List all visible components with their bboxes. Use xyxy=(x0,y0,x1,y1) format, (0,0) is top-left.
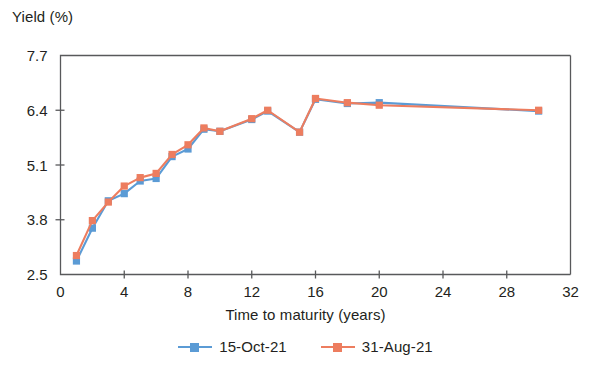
series-line xyxy=(76,99,538,261)
data-point-marker xyxy=(89,217,96,224)
legend-label: 31-Aug-21 xyxy=(362,338,433,355)
data-point-marker xyxy=(248,115,255,122)
data-point-marker xyxy=(121,182,128,189)
data-point-marker xyxy=(137,174,144,181)
data-point-marker xyxy=(153,170,160,177)
data-point-marker xyxy=(535,107,542,114)
data-point-marker xyxy=(216,128,223,135)
x-axis-title: Time to maturity (years) xyxy=(0,306,611,323)
data-point-marker xyxy=(312,95,319,102)
y-tick-label: 2.5 xyxy=(27,266,48,283)
data-point-marker xyxy=(296,129,303,136)
axes xyxy=(56,56,571,279)
legend-label: 15-Oct-21 xyxy=(219,338,287,355)
series-line xyxy=(76,98,538,255)
y-tick-label: 7.7 xyxy=(27,47,48,64)
series-2 xyxy=(73,95,542,259)
y-tick-label: 5.1 xyxy=(27,157,48,174)
x-tick-label: 20 xyxy=(371,283,388,300)
data-point-marker xyxy=(184,141,191,148)
x-tick-label: 4 xyxy=(120,283,128,300)
x-tick-label: 16 xyxy=(307,283,324,300)
legend-swatch-icon xyxy=(321,341,355,353)
legend-item-1[interactable]: 15-Oct-21 xyxy=(178,338,287,355)
chart-legend: 15-Oct-2131-Aug-21 xyxy=(0,338,611,355)
data-point-marker xyxy=(121,190,128,197)
data-point-marker xyxy=(264,107,271,114)
tick-labels: 2.53.85.16.47.7048121620242832 xyxy=(27,47,579,300)
data-point-marker xyxy=(168,151,175,158)
data-point-marker xyxy=(105,198,112,205)
x-tick-label: 28 xyxy=(498,283,515,300)
legend-item-2[interactable]: 31-Aug-21 xyxy=(321,338,433,355)
y-tick-label: 6.4 xyxy=(27,102,48,119)
y-tick-label: 3.8 xyxy=(27,211,48,228)
data-point-marker xyxy=(376,102,383,109)
data-series xyxy=(73,95,542,265)
yield-curve-chart: Yield (%) 2.53.85.16.47.7048121620242832… xyxy=(0,0,611,367)
legend-swatch-icon xyxy=(178,341,212,353)
x-tick-label: 32 xyxy=(562,283,579,300)
x-tick-label: 12 xyxy=(243,283,260,300)
data-point-marker xyxy=(344,99,351,106)
x-tick-label: 0 xyxy=(56,283,64,300)
x-tick-label: 8 xyxy=(184,283,192,300)
data-point-marker xyxy=(73,252,80,259)
x-tick-label: 24 xyxy=(435,283,452,300)
data-point-marker xyxy=(200,124,207,131)
